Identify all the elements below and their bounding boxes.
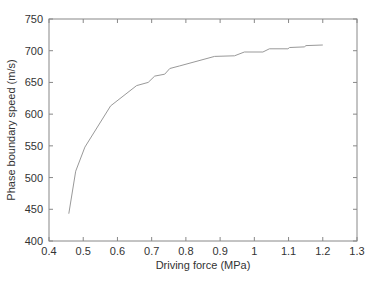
x-tick-label: 0.5 — [76, 245, 91, 257]
x-tick-label: 1.3 — [349, 245, 364, 257]
y-tick-label: 750 — [25, 13, 43, 25]
x-tick-label: 1 — [251, 245, 257, 257]
y-axis-ticks: 400450500550600650700750 — [25, 13, 357, 247]
line-chart: 0.40.50.60.70.80.911.11.21.3 40045050055… — [0, 0, 374, 282]
x-axis-ticks: 0.40.50.60.70.80.911.11.21.3 — [41, 19, 364, 257]
x-tick-label: 0.6 — [110, 245, 125, 257]
y-tick-label: 650 — [25, 76, 43, 88]
x-tick-label: 0.7 — [144, 245, 159, 257]
y-tick-label: 500 — [25, 172, 43, 184]
x-tick-label: 1.2 — [315, 245, 330, 257]
y-tick-label: 550 — [25, 140, 43, 152]
y-tick-label: 700 — [25, 45, 43, 57]
y-tick-label: 400 — [25, 235, 43, 247]
x-tick-label: 0.4 — [41, 245, 56, 257]
data-line — [69, 45, 323, 214]
x-tick-label: 0.9 — [212, 245, 227, 257]
y-tick-label: 600 — [25, 108, 43, 120]
y-tick-label: 450 — [25, 203, 43, 215]
x-axis-label: Driving force (MPa) — [156, 259, 251, 271]
x-tick-label: 1.1 — [281, 245, 296, 257]
x-tick-label: 0.8 — [178, 245, 193, 257]
y-axis-label: Phase boundary speed (m/s) — [5, 59, 17, 200]
